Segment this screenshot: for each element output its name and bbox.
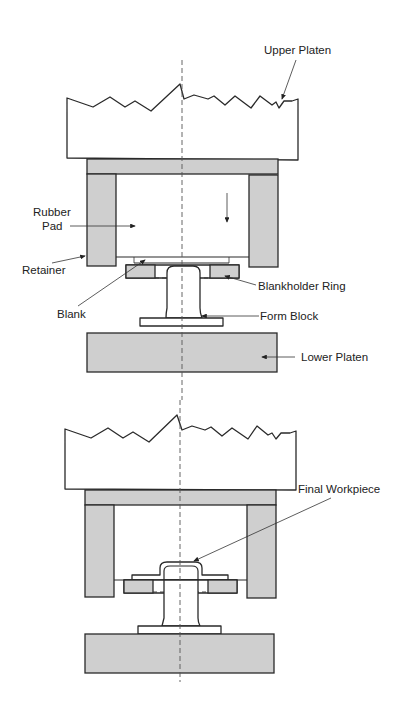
- stage-after: Final Workpiece: [65, 400, 380, 682]
- form-block-base-2: [138, 626, 221, 634]
- form-block: [166, 266, 202, 318]
- retainer-left: [87, 174, 116, 266]
- label-rubber-pad-2: Pad: [42, 220, 62, 232]
- retainer-left-2: [85, 505, 114, 597]
- rubber-pad-forming-diagram: Upper Platen Rubber Pad Retainer Blank B…: [0, 0, 404, 707]
- label-rubber-pad-1: Rubber: [33, 206, 71, 218]
- upper-platen: [67, 84, 298, 160]
- label-form-block: Form Block: [260, 310, 318, 322]
- lower-platen-2: [85, 634, 274, 673]
- label-blankholder-ring: Blankholder Ring: [258, 280, 346, 292]
- form-block-2: [162, 580, 200, 626]
- label-upper-platen: Upper Platen: [264, 44, 331, 56]
- label-blank: Blank: [57, 308, 86, 320]
- retainer-right: [249, 175, 278, 267]
- label-retainer: Retainer: [22, 264, 66, 276]
- label-lower-platen: Lower Platen: [301, 351, 368, 363]
- label-final-workpiece: Final Workpiece: [298, 483, 380, 495]
- form-block-base: [140, 318, 223, 326]
- stage-before: Upper Platen Rubber Pad Retainer Blank B…: [22, 44, 368, 400]
- upper-platen-2: [65, 415, 296, 490]
- retainer-top: [87, 159, 278, 174]
- retainer-top-2: [85, 490, 276, 505]
- retainer-right-2: [247, 505, 276, 598]
